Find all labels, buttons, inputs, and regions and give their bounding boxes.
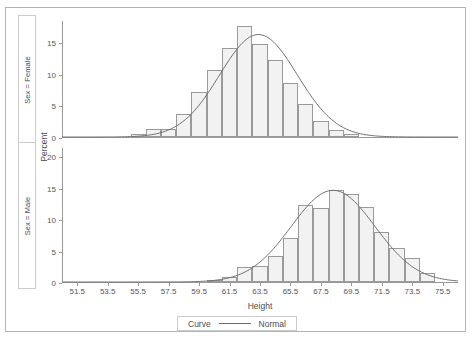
x-tick-mark — [108, 283, 109, 286]
x-tick-label: 59.5 — [191, 287, 207, 296]
x-tick-mark — [169, 283, 170, 286]
x-tick-label: 71.5 — [374, 287, 390, 296]
x-tick-mark — [321, 283, 322, 286]
x-tick-label: 51.5 — [69, 287, 85, 296]
x-tick-mark — [351, 283, 352, 286]
x-tick-mark — [199, 283, 200, 286]
x-tick-label: 61.5 — [222, 287, 238, 296]
x-tick-mark — [230, 283, 231, 286]
plot-panel-male: 05101520 — [6, 148, 467, 283]
y-tick-mark — [59, 138, 62, 139]
legend-line-swatch — [219, 323, 251, 324]
x-axis-title: Height — [62, 301, 458, 311]
x-tick-label: 63.5 — [252, 287, 268, 296]
x-tick-label: 65.5 — [283, 287, 299, 296]
legend-title: Curve — [188, 319, 211, 329]
x-tick-label: 69.5 — [344, 287, 360, 296]
x-tick-mark — [260, 283, 261, 286]
normal-curve — [6, 21, 467, 138]
graph-frame: Sex = Female Sex = Male Percent 051015 0… — [5, 7, 466, 332]
x-tick-mark — [443, 283, 444, 286]
legend-entry-normal: Normal — [259, 319, 286, 329]
plot-area-male: 05101520 — [6, 148, 467, 283]
plot-panel-female: 051015 — [6, 21, 467, 138]
x-tick-label: 57.5 — [161, 287, 177, 296]
x-tick-mark — [382, 283, 383, 286]
x-tick-mark — [412, 283, 413, 286]
x-tick-label: 73.5 — [405, 287, 421, 296]
x-tick-mark — [290, 283, 291, 286]
x-tick-label: 67.5 — [313, 287, 329, 296]
chart-page: Sex = Female Sex = Male Percent 051015 0… — [0, 0, 473, 342]
x-tick-label: 55.5 — [130, 287, 146, 296]
x-tick-mark — [138, 283, 139, 286]
x-tick-mark — [77, 283, 78, 286]
plot-area-female: 051015 — [6, 21, 467, 138]
legend: Curve Normal — [177, 316, 297, 331]
normal-curve — [6, 148, 467, 283]
x-tick-label: 53.5 — [100, 287, 116, 296]
x-tick-label: 75.5 — [435, 287, 451, 296]
clipped-top-text — [0, 0, 473, 5]
